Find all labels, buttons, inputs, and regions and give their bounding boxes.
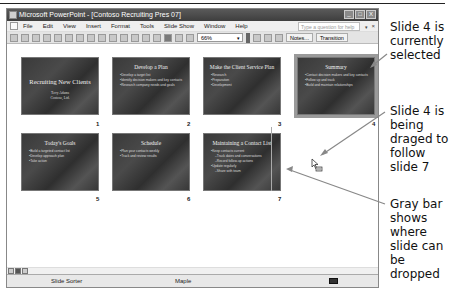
callout-gray-bar: Gray bar shows where slide can be droppe… — [390, 197, 456, 281]
callout-arrows — [0, 0, 457, 296]
callout-slide-dragged: Slide 4 is being draged to follow slide … — [390, 104, 456, 174]
callout-slide-selected: Slide 4 is currently selected — [390, 20, 456, 62]
